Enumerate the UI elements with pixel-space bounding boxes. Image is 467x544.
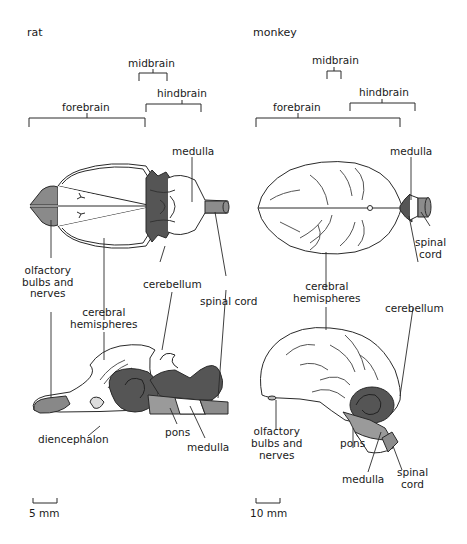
rat-dorsal-brain	[30, 164, 229, 249]
monkey-medulla-bottom-label: medulla	[342, 473, 384, 485]
rat-pons-label: pons	[165, 426, 190, 438]
rat-title: rat	[27, 27, 43, 39]
rat-midbrain-bracket	[139, 69, 167, 81]
monkey-dorsal-brain	[258, 162, 431, 254]
monkey-spinal-cord-top-label: spinal cord	[415, 236, 446, 260]
rat-scale-bar	[33, 498, 57, 503]
monkey-cerebellum-label: cerebellum	[385, 302, 444, 314]
monkey-scale-label: 10 mm	[250, 507, 287, 519]
rat-forebrain-label: forebrain	[62, 101, 110, 113]
monkey-scale-bar	[256, 498, 280, 503]
monkey-forebrain-label: forebrain	[273, 101, 321, 113]
rat-scale-label: 5 mm	[29, 507, 59, 519]
rat-medulla-bottom-label: medulla	[187, 441, 229, 453]
monkey-forebrain-bracket	[256, 113, 400, 127]
rat-forebrain-bracket	[29, 113, 145, 127]
monkey-midbrain-label: midbrain	[312, 54, 359, 66]
rat-hindbrain-bracket	[146, 100, 201, 112]
rat-spinal-cord-label: spinal cord	[200, 295, 257, 307]
rat-cerebral-label: cerebral hemispheres	[70, 306, 138, 330]
monkey-olfactory-label: olfactory bulbs and nerves	[251, 425, 302, 461]
rat-sagittal-brain	[33, 345, 228, 414]
monkey-pons-label: pons	[340, 437, 365, 449]
monkey-midbrain-bracket	[327, 67, 341, 79]
rat-midbrain-label: midbrain	[128, 57, 175, 69]
monkey-cerebral-label: cerebral hemispheres	[293, 280, 361, 304]
rat-hindbrain-label: hindbrain	[157, 87, 207, 99]
rat-olfactory-label: olfactory bulbs and nerves	[22, 265, 73, 300]
rat-diencephalon-label: diencephalon	[38, 433, 109, 445]
monkey-title: monkey	[253, 27, 297, 39]
monkey-hindbrain-bracket	[350, 99, 415, 111]
monkey-medulla-top-label: medulla	[390, 145, 432, 157]
rat-medulla-top-label: medulla	[172, 145, 214, 157]
rat-cerebellum-label: cerebellum	[143, 278, 202, 290]
monkey-spinal-cord-bottom-label: spinal cord	[397, 466, 428, 490]
monkey-hindbrain-label: hindbrain	[359, 86, 409, 98]
